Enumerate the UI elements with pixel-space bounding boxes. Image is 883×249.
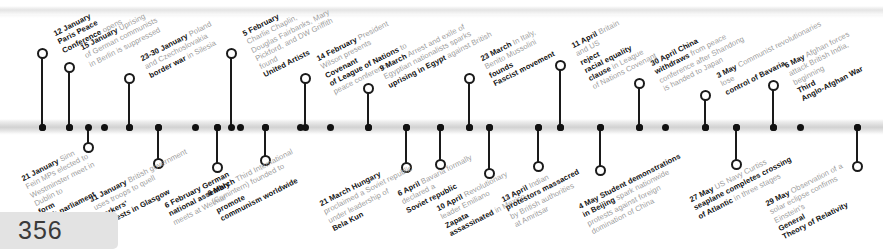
event-marker-ring[interactable] bbox=[464, 73, 475, 84]
event-stem bbox=[230, 57, 232, 127]
event-stem bbox=[264, 127, 266, 157]
event-label: 4 May Student demonstrationsin Beijing s… bbox=[577, 152, 695, 237]
event-stem bbox=[41, 57, 43, 127]
event-marker-ring[interactable] bbox=[595, 165, 606, 176]
event-axis-dot bbox=[214, 124, 221, 131]
event-axis-dot bbox=[466, 124, 473, 131]
event-stem bbox=[304, 82, 306, 127]
event-label: 11 April Britainand US rejectracial equa… bbox=[570, 10, 658, 92]
event-marker-ring[interactable] bbox=[768, 80, 779, 91]
event-stem bbox=[772, 89, 774, 127]
event-marker-ring[interactable] bbox=[555, 60, 566, 71]
event-axis-dot bbox=[365, 124, 372, 131]
event-axis-dot bbox=[636, 124, 643, 131]
timeline-tick-dot bbox=[662, 124, 669, 131]
event-axis-dot bbox=[437, 124, 444, 131]
event-stem bbox=[68, 71, 70, 127]
event-marker-ring[interactable] bbox=[363, 83, 374, 94]
event-marker-ring[interactable] bbox=[64, 62, 75, 73]
event-label: 6 March Third International(Comintern) f… bbox=[206, 147, 307, 223]
event-marker-ring[interactable] bbox=[634, 78, 645, 89]
event-stem bbox=[704, 99, 706, 127]
event-stem bbox=[488, 127, 490, 170]
event-axis-dot bbox=[770, 124, 777, 131]
timeline-tick-dot bbox=[327, 124, 334, 131]
event-stem bbox=[367, 92, 369, 127]
event-axis-dot bbox=[85, 124, 92, 131]
event-axis-dot bbox=[702, 124, 709, 131]
event-axis-dot bbox=[262, 124, 269, 131]
timeline-tick-dot bbox=[101, 124, 108, 131]
timeline-page: 12 JanuaryParis PeaceConference opens15 … bbox=[0, 0, 883, 249]
event-axis-dot bbox=[557, 124, 564, 131]
event-axis-dot bbox=[535, 124, 542, 131]
event-axis-dot bbox=[228, 124, 235, 131]
event-stem bbox=[856, 127, 858, 163]
event-marker-ring[interactable] bbox=[124, 73, 135, 84]
event-marker-ring[interactable] bbox=[300, 73, 311, 84]
event-marker-ring[interactable] bbox=[37, 48, 48, 59]
event-stem bbox=[157, 127, 159, 160]
event-stem bbox=[559, 69, 561, 127]
event-stem bbox=[735, 127, 737, 161]
event-stem bbox=[638, 87, 640, 127]
event-axis-dot bbox=[486, 124, 493, 131]
event-marker-ring[interactable] bbox=[852, 161, 863, 172]
event-axis-dot bbox=[155, 124, 162, 131]
event-axis-dot bbox=[854, 124, 861, 131]
event-axis-dot bbox=[66, 124, 73, 131]
timeline-tick-dot bbox=[192, 124, 199, 131]
event-stem bbox=[128, 82, 130, 127]
event-stem bbox=[216, 127, 218, 164]
event-stem bbox=[439, 127, 441, 161]
timeline-tick-dot bbox=[237, 124, 244, 131]
event-axis-dot bbox=[733, 124, 740, 131]
page-top-edge bbox=[0, 6, 883, 15]
event-stem bbox=[468, 82, 470, 127]
event-marker-ring[interactable] bbox=[533, 161, 544, 172]
page-number: 356 bbox=[18, 216, 63, 245]
event-marker-ring[interactable] bbox=[700, 90, 711, 101]
event-axis-dot bbox=[302, 124, 309, 131]
event-axis-dot bbox=[403, 124, 410, 131]
event-label: 13 April Indianprotestors massacredby Br… bbox=[500, 159, 589, 229]
event-stem bbox=[599, 127, 601, 167]
event-stem bbox=[537, 127, 539, 163]
event-axis-dot bbox=[597, 124, 604, 131]
timeline-tick-dot bbox=[797, 124, 804, 131]
event-marker-ring[interactable] bbox=[226, 48, 237, 59]
event-axis-dot bbox=[39, 124, 46, 131]
event-axis-dot bbox=[126, 124, 133, 131]
